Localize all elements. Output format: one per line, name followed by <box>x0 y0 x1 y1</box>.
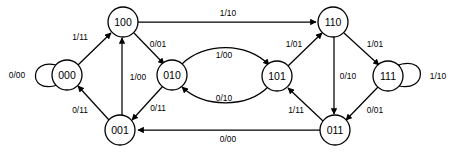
node-label: 100 <box>114 16 132 28</box>
edge-label-010-001: 0/11 <box>150 103 166 113</box>
edge-line <box>346 87 378 120</box>
edge-110-to-011: 0/10 <box>334 37 356 114</box>
node-label: 101 <box>268 70 286 82</box>
edge-label-101-010: 0/10 <box>216 93 233 103</box>
edge-110-to-111: 1/01 <box>344 33 383 65</box>
edge-line <box>288 33 322 66</box>
state-node-000[interactable]: 000 <box>52 60 82 90</box>
node-label: 111 <box>380 70 396 82</box>
state-node-001[interactable]: 001 <box>105 115 135 145</box>
state-node-111[interactable]: 111 <box>373 61 403 91</box>
node-label: 011 <box>327 124 344 136</box>
edge-101-to-010: 0/10 <box>182 87 268 103</box>
state-node-110[interactable]: 110 <box>318 7 348 37</box>
edge-label-011-101: 1/11 <box>288 105 304 115</box>
edge-100-to-110: 1/10 <box>138 8 316 22</box>
state-diagram-canvas: 1/10 0/00 1/10 1/11 0/11 1/00 <box>0 0 456 152</box>
edge-label-101-110: 1/01 <box>286 39 303 49</box>
edge-line <box>344 33 379 65</box>
edge-label-110-111: 1/01 <box>367 39 384 49</box>
edge-001-to-000: 0/11 <box>72 86 109 120</box>
node-label: 110 <box>325 16 342 28</box>
edge-011-to-101: 1/11 <box>288 88 323 121</box>
edge-label-100-110: 1/10 <box>220 8 237 18</box>
state-node-011[interactable]: 011 <box>320 115 350 145</box>
edge-100-to-010: 0/01 <box>134 33 166 64</box>
edge-label-010-101: 1/00 <box>216 50 233 60</box>
node-label: 000 <box>58 69 76 81</box>
edge-111-to-011: 0/01 <box>346 87 383 120</box>
state-node-101[interactable]: 101 <box>262 61 292 91</box>
edge-label-000-self: 0/00 <box>9 70 26 80</box>
edge-001-to-100: 1/00 <box>122 38 146 115</box>
edge-label-111-self: 1/10 <box>430 71 447 81</box>
state-node-100[interactable]: 100 <box>108 7 138 37</box>
edge-label-100-010: 0/01 <box>150 39 167 49</box>
node-label: 001 <box>111 124 129 136</box>
edge-010-to-001: 0/11 <box>132 86 166 120</box>
edge-010-to-101: 1/00 <box>182 48 269 65</box>
edge-label-011-001: 0/00 <box>220 134 237 144</box>
edge-000-to-100: 1/11 <box>72 32 111 65</box>
edge-label-111-011: 0/01 <box>367 105 384 115</box>
edge-label-000-100: 1/11 <box>72 32 88 42</box>
edge-101-to-110: 1/01 <box>286 33 322 66</box>
edge-label-110-011: 0/10 <box>340 71 357 81</box>
state-machine-diagram: 1/10 0/00 1/10 1/11 0/11 1/00 <box>0 0 456 152</box>
state-node-010[interactable]: 010 <box>157 60 187 90</box>
node-label: 010 <box>163 69 181 81</box>
edge-label-001-000: 0/11 <box>72 105 88 115</box>
edge-label-001-100: 1/00 <box>130 72 147 82</box>
edge-011-to-001: 0/00 <box>138 130 320 144</box>
